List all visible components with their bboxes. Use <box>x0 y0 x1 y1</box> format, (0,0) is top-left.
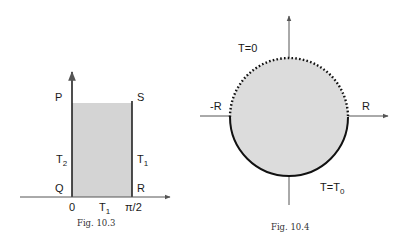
shaded-region <box>72 103 132 197</box>
label-t-equals-0: T=0 <box>238 42 257 54</box>
label-t1-right: T1 <box>137 153 149 168</box>
caption-fig-10-3: Fig. 10.3 <box>77 218 115 228</box>
label-t2: T2 <box>56 153 68 168</box>
diagram-canvas: P S Q R T2 T1 T1 0 π/2 Fig. 10.3 T=0 -R … <box>0 0 409 243</box>
figure-10-4: T=0 -R R T=T0 Fig. 10.4 <box>200 16 388 232</box>
caption-fig-10-4: Fig. 10.4 <box>271 222 309 232</box>
label-s: S <box>137 91 144 103</box>
figure-10-3: P S Q R T2 T1 T1 0 π/2 Fig. 10.3 <box>20 72 170 228</box>
label-q: Q <box>55 182 64 194</box>
label-t1-bottom: T1 <box>99 201 111 216</box>
label-pi-over-2: π/2 <box>125 201 142 213</box>
label-zero: 0 <box>69 201 75 213</box>
label-minus-r: -R <box>210 100 222 112</box>
label-r: R <box>362 100 370 112</box>
label-p: P <box>55 91 62 103</box>
label-r: R <box>137 182 145 194</box>
label-t-equals-t0: T=T0 <box>320 181 345 196</box>
